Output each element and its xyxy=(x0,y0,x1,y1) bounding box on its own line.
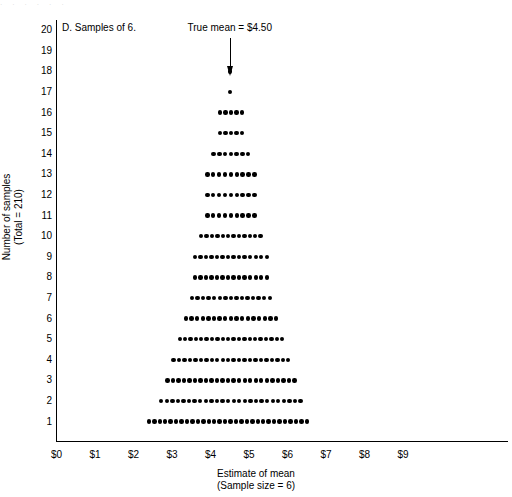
data-dot xyxy=(276,378,280,382)
data-dot xyxy=(215,275,219,279)
data-dot xyxy=(235,193,239,197)
data-dot xyxy=(243,378,247,382)
data-dot xyxy=(163,419,167,423)
data-dot xyxy=(253,358,257,362)
data-dot xyxy=(198,255,202,259)
data-dot xyxy=(217,152,221,156)
data-dot xyxy=(204,337,208,341)
data-dot xyxy=(256,296,260,300)
data-dot xyxy=(265,378,269,382)
data-dot xyxy=(165,378,169,382)
data-dot xyxy=(254,275,258,279)
data-dot xyxy=(245,419,249,423)
data-dot xyxy=(204,255,208,259)
data-dot xyxy=(234,316,238,320)
data-dot xyxy=(253,337,257,341)
data-dot xyxy=(286,358,290,362)
data-dot xyxy=(223,110,227,114)
data-dot xyxy=(218,131,222,135)
data-dot xyxy=(234,110,238,114)
data-dot xyxy=(240,296,244,300)
data-dot xyxy=(294,419,298,423)
data-dot xyxy=(264,337,268,341)
data-dot xyxy=(212,296,216,300)
data-dot xyxy=(210,234,214,238)
dot-plot-figure: · · · · · · 1234567891011121314151617181… xyxy=(0,0,512,497)
data-dot xyxy=(220,275,224,279)
data-dot xyxy=(277,419,281,423)
data-dot xyxy=(223,296,227,300)
data-dot xyxy=(299,419,303,423)
x-axis-tick-$4: $4 xyxy=(196,449,226,460)
data-dot xyxy=(168,419,172,423)
data-dot xyxy=(246,316,250,320)
data-dot xyxy=(248,337,252,341)
data-dot xyxy=(217,213,221,217)
data-dot xyxy=(237,378,241,382)
data-dot xyxy=(147,419,151,423)
data-dot xyxy=(212,316,216,320)
data-dot xyxy=(234,152,238,156)
data-dot xyxy=(189,316,193,320)
data-dot xyxy=(237,275,241,279)
data-dot xyxy=(223,131,227,135)
data-dot xyxy=(190,296,194,300)
data-dot xyxy=(198,399,202,403)
data-dot xyxy=(270,358,274,362)
data-dot xyxy=(223,193,227,197)
data-dot xyxy=(228,69,232,73)
data-dot xyxy=(240,213,244,217)
data-dot xyxy=(287,378,291,382)
data-dot xyxy=(196,419,200,423)
data-dot xyxy=(229,172,233,176)
data-dot xyxy=(207,419,211,423)
x-axis-tick-$0: $0 xyxy=(42,449,72,460)
data-dot xyxy=(240,193,244,197)
data-dot xyxy=(231,275,235,279)
data-dot xyxy=(226,399,230,403)
data-dot xyxy=(226,358,230,362)
data-dot xyxy=(231,378,235,382)
data-dot xyxy=(275,337,279,341)
data-dot xyxy=(220,378,224,382)
data-dot xyxy=(264,358,268,362)
data-dot xyxy=(205,172,209,176)
data-dot xyxy=(204,399,208,403)
data-dot xyxy=(223,213,227,217)
data-dot xyxy=(195,316,199,320)
data-dot xyxy=(265,255,269,259)
data-dot xyxy=(205,193,209,197)
data-dot xyxy=(248,358,252,362)
data-dot xyxy=(252,172,256,176)
data-dot xyxy=(265,275,269,279)
data-dot xyxy=(298,399,302,403)
data-dot xyxy=(239,419,243,423)
data-dot xyxy=(234,131,238,135)
data-dot xyxy=(257,316,261,320)
data-dot xyxy=(248,378,252,382)
data-dot xyxy=(229,213,233,217)
data-dot xyxy=(276,399,280,403)
data-dot xyxy=(211,213,215,217)
data-dot xyxy=(215,234,219,238)
data-dot xyxy=(170,399,174,403)
data-dot xyxy=(205,213,209,217)
data-dot xyxy=(210,358,214,362)
data-dot xyxy=(211,172,215,176)
data-dot xyxy=(305,419,309,423)
data-dot xyxy=(256,419,260,423)
data-dot xyxy=(226,234,230,238)
data-dot xyxy=(193,358,197,362)
data-dot xyxy=(223,152,227,156)
data-dot xyxy=(237,255,241,259)
data-dot xyxy=(240,110,244,114)
data-dot xyxy=(187,399,191,403)
data-dot xyxy=(287,399,291,403)
data-dot xyxy=(229,152,233,156)
data-dot xyxy=(242,358,246,362)
data-dot xyxy=(185,419,189,423)
x-axis-tick-$1: $1 xyxy=(80,449,110,460)
data-dot xyxy=(253,234,257,238)
data-dot xyxy=(198,378,202,382)
data-dot xyxy=(215,255,219,259)
